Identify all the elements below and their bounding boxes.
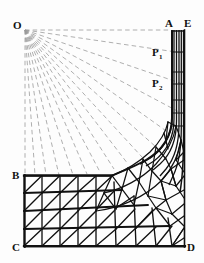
mesh-diag-r4-c3: [60, 229, 78, 246]
mesh-diag-r3-c3: [60, 211, 78, 229]
mesh-diag-r4-c2: [42, 229, 60, 246]
mesh-diag-r4-c8: [156, 226, 172, 246]
ray-11: [25, 30, 87, 174]
label-P1: P: [152, 46, 159, 58]
mesh-diag-r1-c3: [60, 176, 78, 193]
mesh-diag-r2-c2: [42, 193, 60, 211]
mesh-diagram: O A E B C D P 1 P 2: [0, 0, 204, 263]
mesh-col-7: [134, 196, 136, 246]
label-C: C: [12, 241, 20, 253]
mesh-diag-r1-c1: [24, 176, 42, 193]
mesh-diag-r3-c2: [42, 211, 60, 229]
curve-radial-8: [148, 171, 152, 196]
ray-fan-group: [25, 30, 183, 175]
ray-4: [25, 30, 181, 113]
mesh-diag-r4-c6: [116, 228, 136, 246]
label-P2: P: [152, 77, 159, 89]
ray-8: [25, 30, 128, 164]
rt-23: [161, 181, 166, 200]
mesh-diag-r3-c4: [78, 211, 96, 229]
ray-5: [25, 30, 169, 133]
ray-14: [25, 30, 46, 175]
rt-21: [161, 169, 171, 181]
label-D: D: [187, 241, 195, 253]
rt-24: [172, 228, 184, 246]
label-E: E: [184, 17, 191, 29]
mesh-diag-r1-c4: [78, 176, 96, 192]
rt-6: [176, 176, 184, 186]
rt-13: [172, 238, 184, 246]
mesh-diag-r4-c1: [24, 229, 42, 246]
ray-7: [25, 30, 142, 157]
lower-block-mesh: [24, 176, 185, 247]
rt-10: [172, 204, 184, 214]
mesh-diag-r1-c2: [42, 176, 60, 193]
label-B: B: [12, 169, 20, 181]
label-P2-subscript: 2: [159, 84, 163, 92]
curve-diag-8: [152, 171, 161, 181]
mesh-diag-r2-c1: [24, 193, 42, 211]
rt-17: [156, 200, 166, 208]
mesh-diag-r1-c5: [96, 176, 112, 191]
figure-root: O A E B C D P 1 P 2: [0, 0, 204, 263]
ray-10: [25, 30, 100, 172]
label-P1-subscript: 1: [159, 53, 163, 61]
mesh-diag-r3-c1: [24, 211, 42, 229]
ray-2: [25, 30, 183, 53]
curve-diag-3: [143, 159, 152, 171]
ray-9: [25, 30, 114, 169]
label-A: A: [165, 17, 173, 29]
rt-22: [161, 181, 176, 186]
mesh-diag-r3-c5: [96, 210, 115, 229]
mesh-diag-r4-c5: [96, 229, 116, 246]
mesh-diag-r4-c7: [136, 227, 156, 246]
curve-diag-2: [128, 168, 139, 182]
mesh-col-9: [168, 218, 172, 246]
ray-15: [25, 30, 35, 175]
label-O: O: [13, 19, 22, 31]
mesh-diag-r4-c4: [78, 229, 96, 246]
